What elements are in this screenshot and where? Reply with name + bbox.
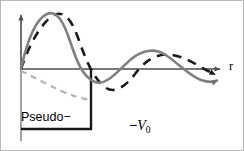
potential-depth-label: −V0 <box>129 118 151 135</box>
potential-depth-minus-sign: − <box>129 117 137 133</box>
x-axis-label: r <box>229 60 233 74</box>
pseudopotential-figure: Pseudo− wavefunction −V0 r <box>0 0 244 151</box>
potential-depth-subscript: 0 <box>146 125 151 135</box>
pseudo-wavefunction-label-line1: Pseudo− <box>21 111 94 125</box>
potential-depth-symbol: V <box>137 118 146 133</box>
pseudo-wavefunction-label: Pseudo− wavefunction <box>21 84 94 151</box>
pseudo-wavefunction-curve <box>21 13 217 83</box>
all-electron-wavefunction-curve <box>21 14 215 90</box>
